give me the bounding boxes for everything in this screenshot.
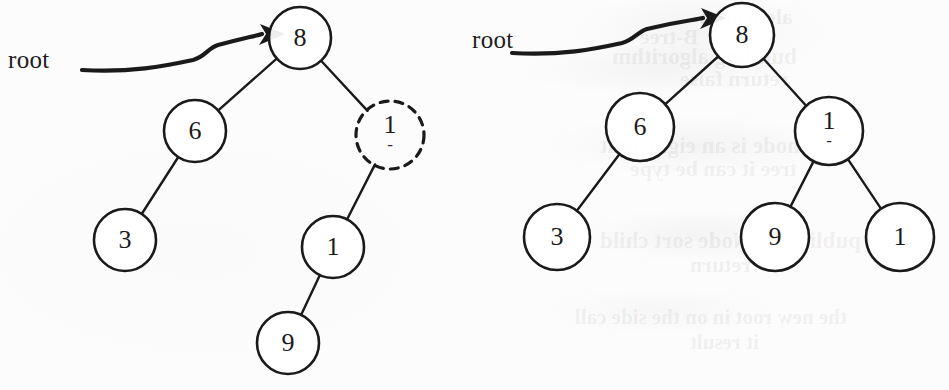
root-arrow-right [512,8,726,54]
tree-edge [576,153,620,211]
tree-edge [665,56,719,105]
tree-node-label: 1- [823,108,836,145]
tree-node-value: 3 [119,225,132,254]
root-label-right: root [472,26,513,54]
tree-edge [847,158,881,209]
tree-edge [763,58,807,107]
tree-node-value: 1 [327,232,340,261]
tree-edge [217,58,277,111]
tree-node-value-sub-mark: - [823,137,836,145]
tree-node-label: 8 [294,25,307,51]
tree-node-label: 8 [736,22,749,48]
tree-node-label: 9 [282,330,295,356]
tree-node-label: 1 [894,224,907,250]
tree-edge [141,156,179,215]
root-arrow-left [82,24,285,71]
tree-node-label: 9 [769,224,782,250]
tree-edge [301,274,321,316]
tree-node-value: 1 [894,222,907,251]
tree-node-label: 6 [634,114,647,140]
tree-node-label: 3 [551,224,564,250]
tree-node-label: 1 [327,234,340,260]
tree-edge [347,164,375,220]
tree-node-value: 8 [736,20,749,49]
tree-edge [790,160,814,207]
tree-node-label: 1- [384,112,397,149]
tree-node-value: 3 [551,222,564,251]
tree-node-value: 8 [294,23,307,52]
tree-node-value-sub-mark: - [384,141,397,149]
tree-edges-layer [141,56,881,316]
tree-nodes-layer [94,3,934,374]
tree-node-value: 6 [634,112,647,141]
tree-node-value: 9 [769,222,782,251]
tree-node-label: 3 [119,227,132,253]
tree-diagram-svg [0,0,949,390]
tree-node-label: 6 [189,118,202,144]
tree-edge [320,60,367,111]
tree-node-value: 6 [189,116,202,145]
root-label-left: root [8,46,49,74]
tree-node-value: 9 [282,328,295,357]
figure-canvas: algorithmB-treebuilding algorithmreturn … [0,0,949,390]
